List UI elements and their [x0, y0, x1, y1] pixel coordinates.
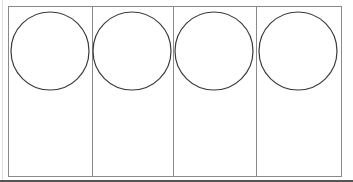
panel-diagram — [0, 0, 353, 182]
circle-shape — [93, 12, 171, 90]
bottom-border — [0, 180, 353, 182]
panel-dividers — [93, 6, 257, 176]
outer-rectangle — [9, 7, 342, 177]
circle-shape — [11, 12, 89, 90]
circle-shape — [175, 12, 253, 90]
circle-shape — [259, 12, 337, 90]
